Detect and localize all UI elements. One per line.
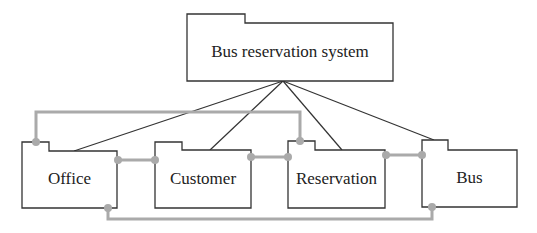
connector-dot xyxy=(247,153,255,161)
package-label-office: Office xyxy=(22,169,117,189)
package-label-bus: Bus xyxy=(422,168,517,188)
containment-line-reservation xyxy=(283,81,342,150)
root-package-label: Bus reservation system xyxy=(187,42,393,62)
containment-line-customer xyxy=(210,81,283,150)
connector-dot xyxy=(104,204,112,212)
containment-edges xyxy=(74,81,434,151)
connector-dot xyxy=(32,138,40,146)
dependency-office-bus xyxy=(108,207,432,219)
connector-dot xyxy=(428,203,436,211)
diagram-canvas xyxy=(0,0,537,233)
connector-dot xyxy=(418,151,426,159)
containment-line-office xyxy=(74,81,283,151)
connector-dot xyxy=(296,137,304,145)
package-label-customer: Customer xyxy=(155,169,251,189)
connector-dot xyxy=(114,156,122,164)
connector-dot xyxy=(382,151,390,159)
connector-dot xyxy=(151,156,159,164)
connector-dot xyxy=(284,153,292,161)
dependency-office-reservation xyxy=(36,112,300,142)
package-label-reservation: Reservation xyxy=(288,169,385,189)
containment-line-bus xyxy=(283,81,434,140)
